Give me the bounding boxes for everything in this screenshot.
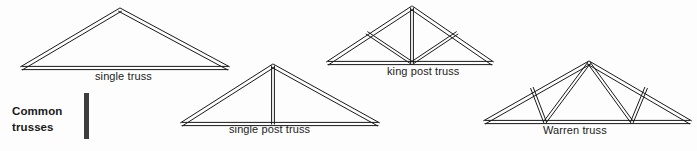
section-title-line-2: trusses: [12, 119, 80, 135]
truss-label-warren-truss: Warren truss: [543, 124, 607, 136]
truss-label-single-truss: single truss: [95, 70, 152, 82]
truss-shape-group: [21, 6, 692, 126]
truss-single-truss: [21, 8, 230, 70]
truss-single-post-truss: [181, 64, 380, 126]
section-title-line-1: Common: [12, 103, 80, 119]
truss-label-king-post-truss: king post truss: [387, 65, 459, 77]
section-title-divider-rule: [84, 93, 89, 139]
figure-section-title: Common trusses: [12, 103, 80, 135]
truss-king-post-truss: [327, 6, 494, 65]
truss-label-single-post-truss: single post truss: [229, 123, 310, 135]
truss-warren-truss: [484, 61, 692, 124]
common-trusses-figure: Common trusses single truss single post …: [0, 0, 697, 151]
